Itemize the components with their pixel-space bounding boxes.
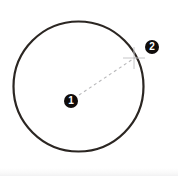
- callout-marker-2[interactable]: 2: [145, 40, 159, 54]
- diagram-canvas: 1 2: [0, 0, 178, 176]
- callout-marker-1[interactable]: 1: [64, 94, 78, 108]
- bottom-edge-band: [0, 168, 178, 176]
- circle-diagram-svg: [0, 0, 178, 176]
- circle-outline: [14, 22, 144, 152]
- radius-dashed-line: [79, 57, 136, 95]
